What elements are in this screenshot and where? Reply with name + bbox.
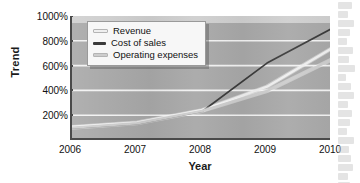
bleed-text-line [338,137,354,144]
legend-item-revenue: Revenue [93,25,198,37]
legend-item-operating-expenses: Operating expenses [93,49,198,61]
bleed-text-line [338,155,351,162]
chart-legend: Revenue Cost of sales Operating expenses [87,21,206,66]
bleed-text-line [338,101,348,108]
legend-item-label: Operating expenses [113,49,198,61]
y-axis-tick-mark [70,40,73,42]
y-axis-tick-label: 800% [42,35,68,46]
bleed-text-line [338,56,349,63]
bleed-text-line [338,173,348,180]
bleed-text-line [338,83,351,90]
y-axis-tick-label: 200% [42,110,68,121]
bleed-text-line [338,65,355,72]
x-axis-tick-label: 2007 [124,144,146,155]
x-axis-tick-labels: 20062007200820092010 [0,144,360,160]
bleed-text-line [338,119,350,126]
x-axis-tick-label: 2006 [59,144,81,155]
y-axis-tick-label: 400% [42,85,68,96]
bleed-text-line [338,38,347,45]
bleed-text-line [338,182,350,183]
page-bleed-artifact [336,0,360,183]
legend-swatch-icon [93,29,108,33]
bleed-text-line [338,20,354,27]
series-line-operating-expenses [72,59,330,127]
y-axis-tick-label: 600% [42,60,68,71]
legend-item-label: Cost of sales [111,37,166,49]
bleed-text-line [338,11,348,18]
bleed-text-line [338,164,353,171]
bleed-text-line [338,2,352,9]
x-axis-title: Year [70,160,330,172]
legend-swatch-icon [93,42,106,45]
y-axis-tick-mark [70,16,73,17]
bleed-text-line [338,74,346,81]
x-axis-tick-label: 2009 [254,144,276,155]
legend-item-cost-of-sales: Cost of sales [93,37,198,49]
y-axis-tick-mark [70,89,73,91]
bleed-text-line [338,110,352,117]
x-axis-tick-label: 2008 [189,144,211,155]
bleed-text-line [338,128,347,135]
y-axis-tick-mark [70,65,73,67]
series-halo [72,59,330,127]
y-axis-tick-mark [70,114,73,116]
chart-figure: Trend 200%400%600%800%1000% 200620072008… [0,0,360,183]
bleed-text-line [338,47,353,54]
legend-item-label: Revenue [113,25,151,37]
bleed-text-line [338,29,350,36]
bleed-text-line [338,146,349,153]
y-axis-tick-label: 1000% [37,11,68,22]
bleed-text-line [338,92,354,99]
legend-swatch-icon [93,53,108,57]
